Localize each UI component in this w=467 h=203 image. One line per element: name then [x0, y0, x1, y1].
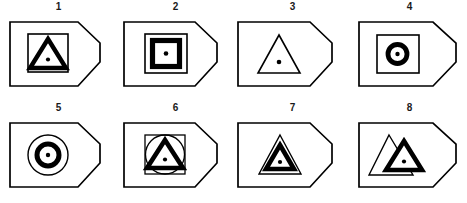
figure-cell-2: 2 [117, 0, 234, 101]
center-dot-8 [402, 159, 406, 163]
figure-label-5: 5 [0, 102, 117, 113]
figure-cell-3: 3 [234, 0, 351, 101]
figure-cell-5: 5 [0, 101, 117, 202]
figure-cell-4: 4 [351, 0, 467, 101]
figure-cell-1: 1 [0, 0, 117, 101]
figure-label-7: 7 [234, 102, 351, 113]
figure-drawing-7 [234, 114, 351, 202]
center-dot-2 [164, 51, 169, 56]
center-dot-5 [46, 153, 50, 157]
figure-label-6: 6 [117, 102, 234, 113]
figure-drawing-2 [117, 13, 234, 101]
figure-drawing-3 [234, 13, 351, 101]
figure-drawing-8 [351, 114, 467, 202]
center-dot-3 [277, 60, 282, 65]
figure-drawing-6 [117, 114, 234, 202]
figure-plate: 1 2 3 [0, 0, 467, 203]
figure-label-8: 8 [351, 102, 467, 113]
figure-label-2: 2 [117, 1, 234, 12]
figure-label-4: 4 [351, 1, 467, 12]
center-dot-7 [278, 160, 282, 164]
figure-cell-6: 6 [117, 101, 234, 202]
figure-cell-8: 8 [351, 101, 467, 202]
figure-label-3: 3 [234, 1, 351, 12]
figure-drawing-1 [0, 13, 117, 101]
center-dot-1 [46, 57, 50, 61]
center-dot-6 [163, 157, 167, 161]
center-dot-4 [395, 52, 399, 56]
figure-drawing-4 [351, 13, 467, 101]
figure-label-1: 1 [0, 1, 117, 12]
figure-drawing-5 [0, 114, 117, 202]
figure-cell-7: 7 [234, 101, 351, 202]
